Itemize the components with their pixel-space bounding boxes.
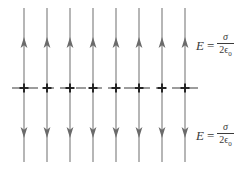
field-label-above-fraction: σ 2ϵ0 (217, 32, 234, 58)
charge-plus-5 (112, 84, 121, 93)
field-label-above-denominator: 2ϵ0 (217, 44, 234, 58)
field-label-above-quantity: E (196, 39, 204, 52)
field-label-below-fraction: σ 2ϵ0 (217, 122, 234, 148)
charge-plus-7 (158, 84, 167, 93)
field-label-above-numerator: σ (221, 32, 230, 43)
field-label-above-plane: E = σ 2ϵ0 (196, 32, 234, 58)
charge-plus-4 (89, 84, 98, 93)
lower-field-lines (24, 90, 185, 162)
charge-plus-6 (135, 84, 144, 93)
field-label-below-quantity: E (196, 129, 204, 142)
field-label-above-denominator-subscript: 0 (228, 50, 232, 58)
field-label-below-equals: = (207, 129, 214, 142)
field-label-above-equals: = (207, 39, 214, 52)
field-label-below-plane: E = σ 2ϵ0 (196, 122, 234, 148)
field-label-below-denominator: 2ϵ0 (217, 134, 234, 148)
charge-plus-1 (20, 84, 29, 93)
upper-field-lines (24, 8, 185, 86)
charge-plus-2 (43, 84, 52, 93)
field-label-below-denominator-subscript: 0 (228, 140, 232, 148)
electric-field-diagram: E = σ 2ϵ0 E = σ 2ϵ0 (0, 0, 250, 174)
plane-charges (20, 84, 190, 93)
lower-arrowheads (21, 127, 189, 138)
upper-arrowheads (21, 37, 189, 48)
charge-plus-8 (181, 84, 190, 93)
charge-plus-3 (66, 84, 75, 93)
field-label-below-numerator: σ (221, 122, 230, 133)
